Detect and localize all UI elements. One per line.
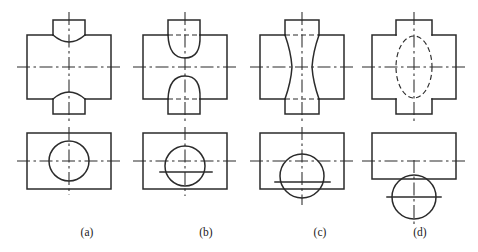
case-b: (b) <box>133 12 237 239</box>
case-a-front-view <box>17 12 121 122</box>
case-d-front-view <box>362 12 466 122</box>
case-d: (d) <box>362 12 466 239</box>
caption-c: (c) <box>314 226 327 239</box>
intersection-curve-bottom-b <box>168 76 200 99</box>
case-a: (a) <box>17 12 121 239</box>
case-b-front-view <box>133 12 237 122</box>
caption-a: (a) <box>81 226 94 239</box>
intersection-curve-top-b <box>168 35 200 58</box>
case-c: (c) <box>250 12 354 239</box>
case-c-front-view <box>250 12 354 122</box>
caption-b: (b) <box>199 226 213 239</box>
case-c-top-view <box>250 127 354 205</box>
caption-d: (d) <box>413 226 427 239</box>
drawing-canvas: (a) (b) <box>0 0 478 252</box>
case-d-top-view <box>362 133 466 226</box>
case-b-top-view <box>133 127 237 196</box>
engineering-figure: (a) (b) <box>0 0 478 252</box>
case-a-top-view <box>17 127 121 195</box>
